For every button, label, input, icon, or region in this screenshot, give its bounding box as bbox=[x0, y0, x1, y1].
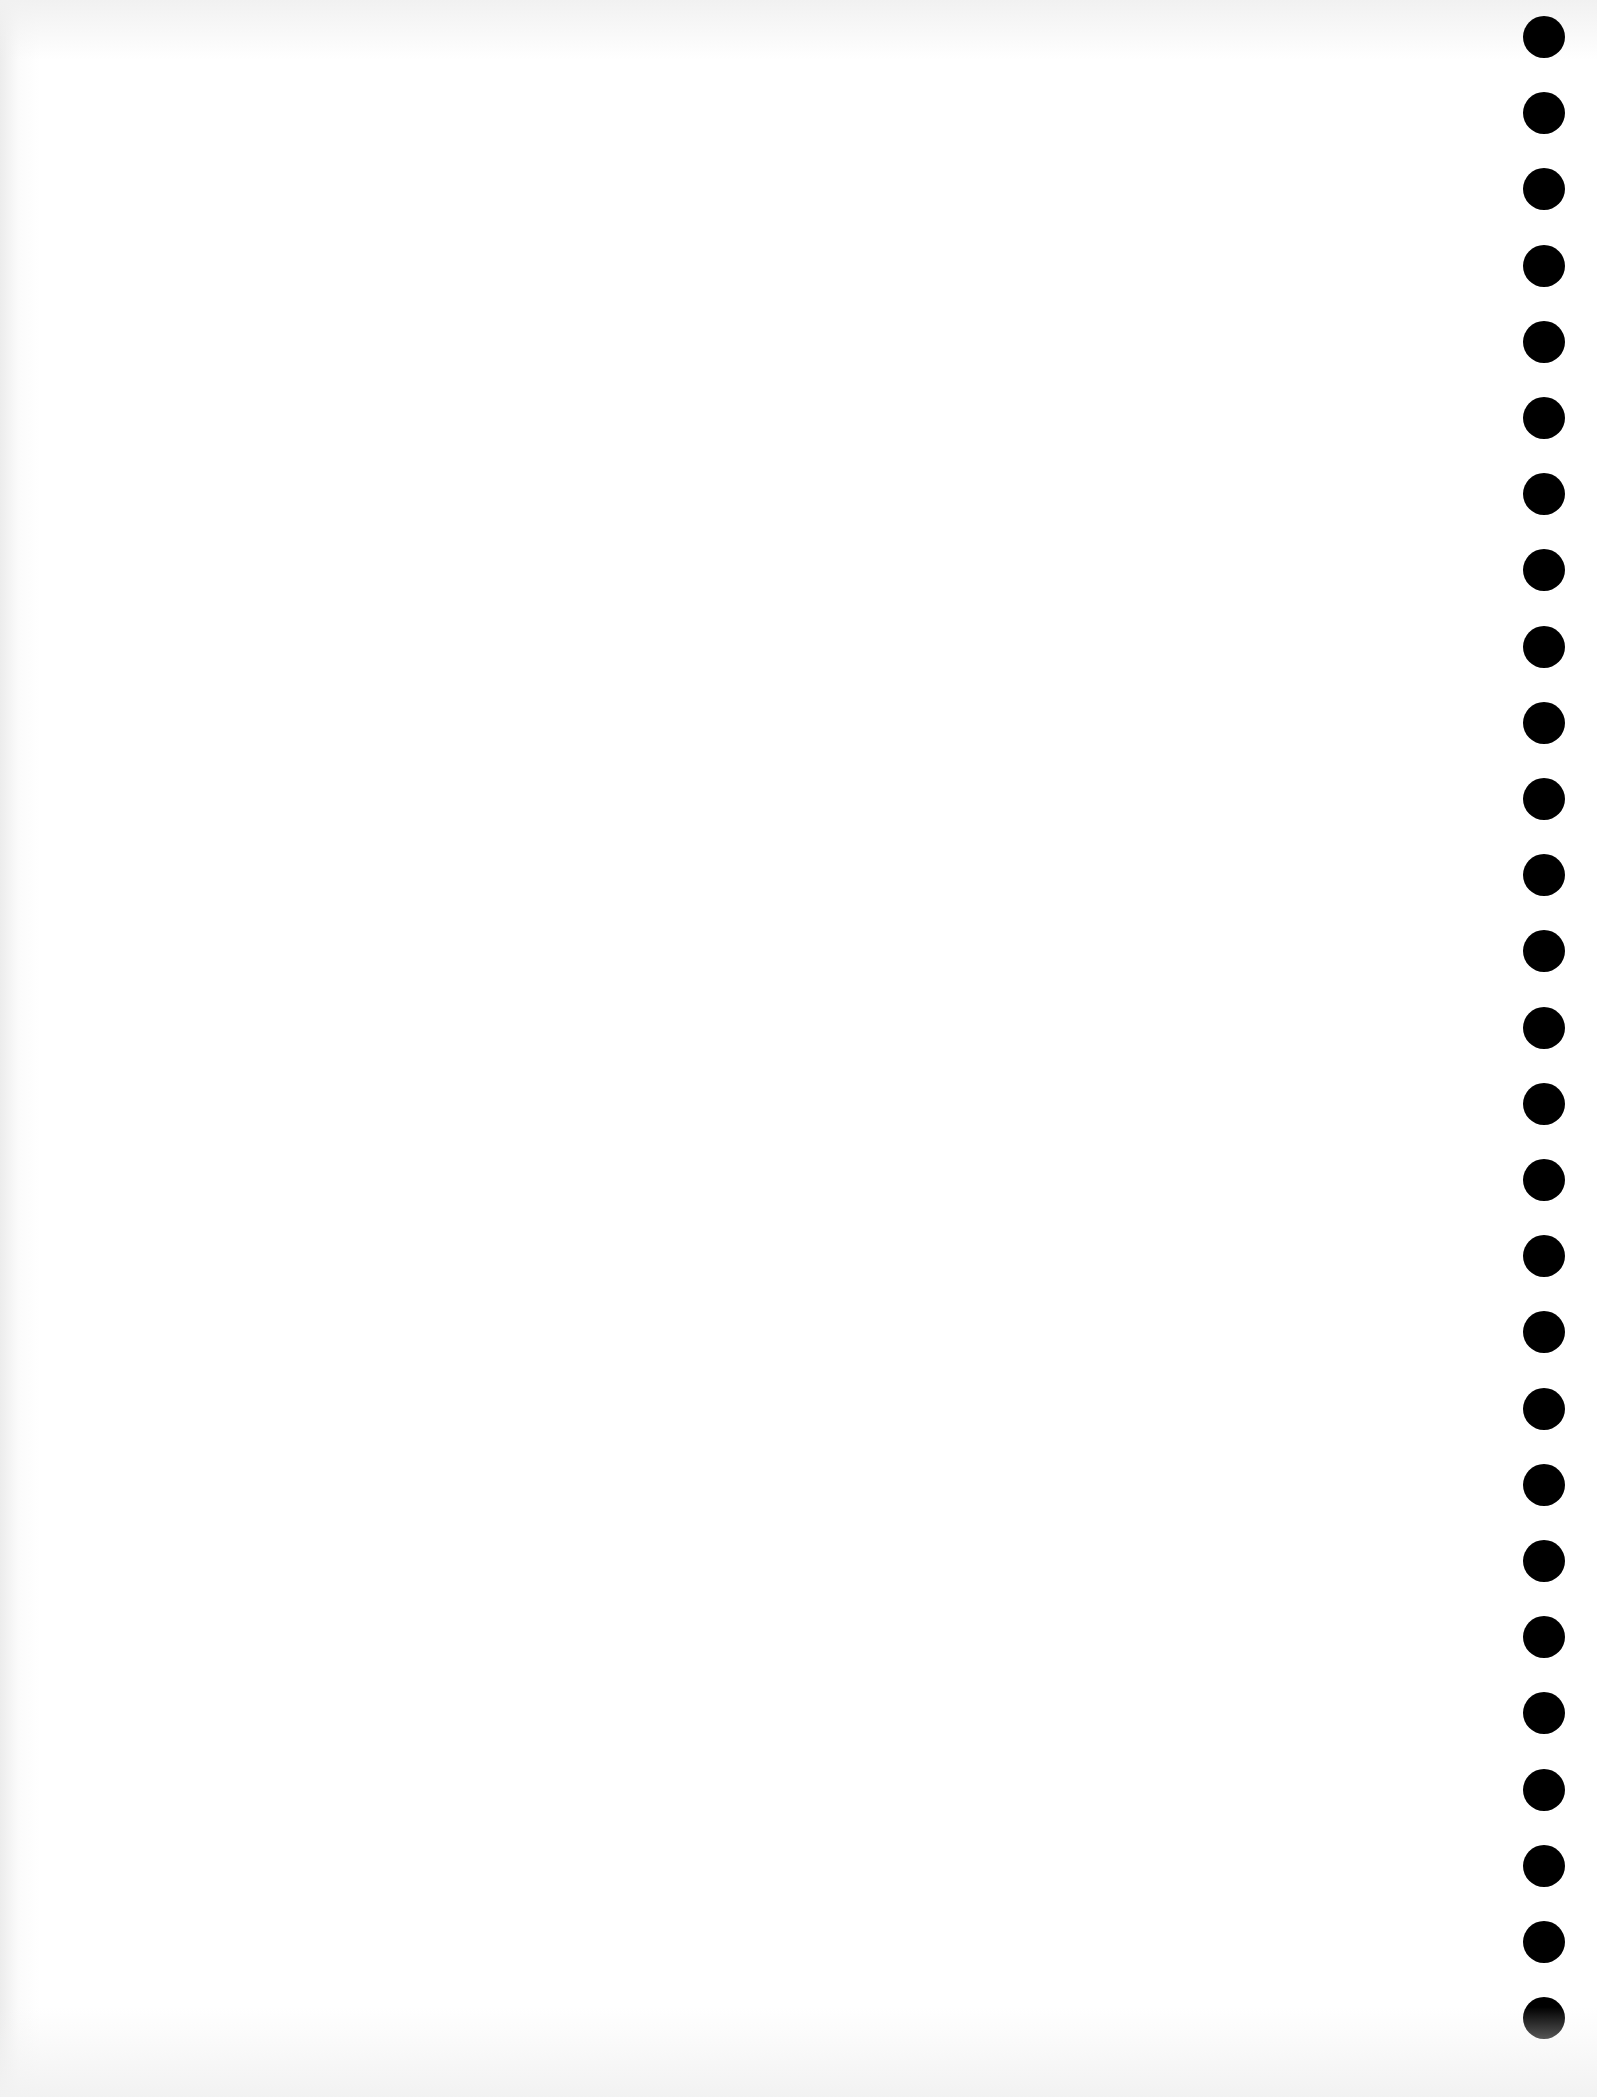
punch-hole-icon bbox=[1523, 778, 1565, 820]
punch-hole-icon bbox=[1523, 626, 1565, 668]
punch-hole-icon bbox=[1523, 245, 1565, 287]
punch-hole-icon bbox=[1523, 702, 1565, 744]
punch-hole-icon bbox=[1523, 930, 1565, 972]
punch-hole-icon bbox=[1523, 1007, 1565, 1049]
punch-hole-icon bbox=[1523, 854, 1565, 896]
punch-hole-icon bbox=[1523, 1997, 1565, 2039]
punch-hole-icon bbox=[1523, 1845, 1565, 1887]
punch-hole-icon bbox=[1523, 1311, 1565, 1353]
punch-hole-icon bbox=[1523, 1921, 1565, 1963]
punch-hole-icon bbox=[1523, 168, 1565, 210]
punch-hole-icon bbox=[1523, 1083, 1565, 1125]
punch-hole-icon bbox=[1523, 1464, 1565, 1506]
punch-hole-icon bbox=[1523, 473, 1565, 515]
punch-hole-icon bbox=[1523, 92, 1565, 134]
punch-hole-icon bbox=[1523, 1540, 1565, 1582]
punch-hole-icon bbox=[1523, 1769, 1565, 1811]
punch-hole-strip bbox=[1523, 0, 1567, 2097]
punch-hole-icon bbox=[1523, 1692, 1565, 1734]
punch-hole-icon bbox=[1523, 549, 1565, 591]
punch-hole-icon bbox=[1523, 1388, 1565, 1430]
punch-hole-icon bbox=[1523, 16, 1565, 58]
blank-scanned-page bbox=[0, 0, 1597, 2097]
punch-hole-icon bbox=[1523, 1235, 1565, 1277]
punch-hole-icon bbox=[1523, 321, 1565, 363]
punch-hole-icon bbox=[1523, 1159, 1565, 1201]
punch-hole-icon bbox=[1523, 397, 1565, 439]
punch-hole-icon bbox=[1523, 1616, 1565, 1658]
